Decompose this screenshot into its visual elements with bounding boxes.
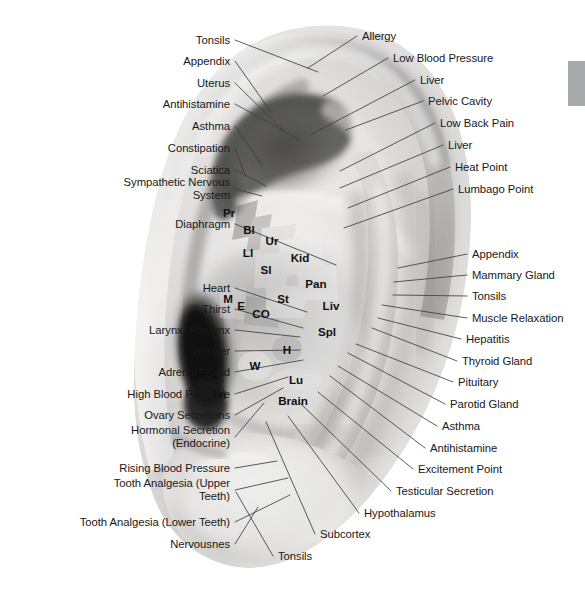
callout-label: Tooth Analgesia (Upper Teeth) (114, 477, 230, 502)
point-abbreviation: M (223, 292, 233, 305)
callout-label: Muscle Relaxation (472, 312, 563, 325)
callout-label: Sympathetic Nervous System (124, 176, 230, 201)
point-abbreviation: Brain (278, 394, 308, 407)
point-abbreviation: Pr (223, 206, 235, 219)
callout-label: Hormonal Secretion (Endocrine) (131, 424, 230, 449)
callout-label: Hypothalamus (364, 507, 436, 520)
callout-label: Subcortex (320, 528, 370, 541)
callout-label: Tooth Analgesia (Lower Teeth) (80, 516, 230, 529)
callout-label: Tonsils (278, 550, 312, 563)
callout-label: Tonsils (196, 34, 230, 47)
point-abbreviation: Lu (289, 373, 303, 386)
callout-label: Asthma (442, 420, 480, 433)
callout-label: Antihistamine (430, 442, 497, 455)
point-abbreviation: H (283, 343, 291, 356)
point-abbreviation: Spl (318, 325, 336, 338)
point-abbreviation: Kid (291, 251, 310, 264)
callout-label: Lumbago Point (458, 183, 533, 196)
callout-label: Mammary Gland (472, 269, 555, 282)
point-abbreviation: CO (252, 307, 269, 320)
callout-label: Nervousnes (170, 538, 230, 551)
callout-label: Hunger (193, 345, 230, 358)
callout-label: Testicular Secretion (396, 485, 494, 498)
point-abbreviation: Tri (212, 388, 226, 401)
point-abbreviation: St (277, 292, 289, 305)
callout-label: Uterus (197, 77, 230, 90)
point-abbreviation: E (237, 299, 245, 312)
callout-label: Larynx, Pharynx (149, 324, 230, 337)
callout-label: Appendix (472, 248, 519, 261)
callout-label: Antihistamine (163, 98, 230, 111)
callout-label: Tonsils (472, 290, 506, 303)
callout-label: Constipation (168, 142, 230, 155)
point-abbreviation: Pan (305, 277, 326, 290)
point-abbreviation: W (250, 359, 261, 372)
point-abbreviation: Bl (243, 223, 255, 236)
callout-label: Rising Blood Pressure (119, 462, 230, 475)
callout-label: Ovary Secretions (144, 409, 230, 422)
callout-label: Excitement Point (418, 463, 502, 476)
callout-label: Adrenal Gland (158, 366, 230, 379)
callout-label: Low Back Pain (440, 117, 514, 130)
callout-label: Asthma (192, 120, 230, 133)
point-abbreviation: Liv (323, 299, 340, 312)
callout-label: Hepatitis (466, 333, 510, 346)
callout-label: Thyroid Gland (462, 355, 532, 368)
callout-label: Parotid Gland (450, 398, 518, 411)
callout-label: Appendix (183, 55, 230, 68)
callout-label: Allergy (362, 30, 396, 43)
callout-label: Sciatica (191, 164, 230, 177)
callout-label: Heat Point (455, 161, 507, 174)
callout-label: Liver (420, 74, 444, 87)
callout-label: Low Blood Pressure (393, 52, 493, 65)
callout-label: Pelvic Cavity (428, 95, 492, 108)
callout-label: Liver (448, 139, 472, 152)
scrollbar-thumb[interactable] (568, 61, 585, 106)
ear-acupuncture-diagram: TonsilsAppendixUterusAntihistamineAsthma… (0, 0, 585, 595)
callout-label: Diaphragm (175, 218, 230, 231)
callout-label: Pituitary (458, 376, 498, 389)
point-abbreviation: LI (243, 246, 253, 259)
point-abbreviation: SI (261, 263, 272, 276)
point-abbreviation: Ur (266, 234, 279, 247)
callout-label: Thirst (202, 303, 230, 316)
